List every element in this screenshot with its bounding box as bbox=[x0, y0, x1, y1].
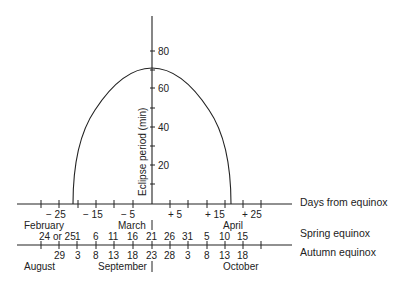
autumn-date-9: 13 bbox=[219, 250, 231, 261]
autumn-date-5: 23 bbox=[146, 250, 158, 261]
spring-date-10: 15 bbox=[237, 231, 249, 242]
month-february: February bbox=[24, 220, 64, 231]
autumn-date-0: 29 bbox=[54, 250, 66, 261]
spring-equinox-label: Spring equinox bbox=[300, 227, 371, 239]
days-tick-minus5: − 5 bbox=[121, 209, 136, 220]
month-august: August bbox=[24, 261, 55, 272]
y-axis-label: Eclipse period (min) bbox=[137, 108, 148, 196]
autumn-date-6: 28 bbox=[164, 250, 176, 261]
eclipse-period-chart: 80 60 40 20 Eclipse period (min) − 25 − … bbox=[0, 0, 403, 285]
autumn-date-1: 3 bbox=[75, 250, 81, 261]
spring-date-9: 10 bbox=[219, 231, 231, 242]
spring-date-2: 6 bbox=[93, 231, 99, 242]
spring-date-8: 5 bbox=[204, 231, 210, 242]
month-october: October bbox=[223, 261, 259, 272]
autumn-date-10: 18 bbox=[237, 250, 249, 261]
y-tick-80: 80 bbox=[158, 46, 170, 57]
days-tick-plus5: + 5 bbox=[168, 209, 183, 220]
days-tick-plus25: + 25 bbox=[242, 209, 262, 220]
days-tick-minus15: − 15 bbox=[83, 209, 103, 220]
y-tick-40: 40 bbox=[158, 122, 170, 133]
autumn-equinox-label: Autumn equinox bbox=[300, 246, 377, 258]
month-march: March bbox=[118, 220, 146, 231]
spring-date-4: 16 bbox=[127, 231, 139, 242]
spring-date-3: 11 bbox=[108, 231, 119, 242]
spring-date-5: 21 bbox=[146, 231, 158, 242]
month-april: April bbox=[223, 220, 243, 231]
days-from-equinox-label: Days from equinox bbox=[300, 196, 388, 208]
autumn-date-4: 18 bbox=[127, 250, 139, 261]
month-september: September bbox=[98, 261, 148, 272]
spring-date-0: 24 or 25 bbox=[39, 231, 76, 242]
autumn-date-7: 3 bbox=[185, 250, 191, 261]
days-tick-minus25: − 25 bbox=[46, 209, 66, 220]
y-tick-60: 60 bbox=[158, 83, 170, 94]
autumn-date-2: 8 bbox=[93, 250, 99, 261]
days-tick-plus15: + 15 bbox=[205, 209, 225, 220]
autumn-date-8: 8 bbox=[204, 250, 210, 261]
autumn-date-3: 13 bbox=[108, 250, 120, 261]
spring-date-6: 26 bbox=[164, 231, 176, 242]
spring-date-1: 1 bbox=[75, 231, 81, 242]
y-tick-20: 20 bbox=[158, 160, 170, 171]
spring-date-7: 31 bbox=[182, 231, 194, 242]
